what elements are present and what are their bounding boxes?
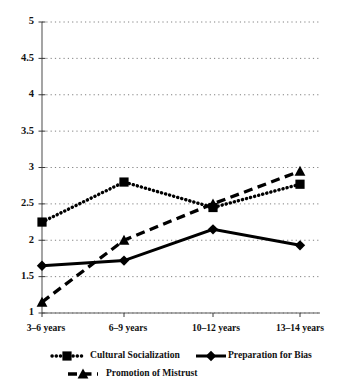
- series-promotion-of-mistrust: [37, 166, 306, 307]
- y-tick-label: 1.5: [21, 270, 34, 281]
- series-layer: [37, 166, 306, 307]
- legend-label: Cultural Socialization: [90, 349, 180, 360]
- data-point-marker: [295, 180, 304, 189]
- legend-item-preparation-for-bias[interactable]: Preparation for Bias: [196, 349, 312, 361]
- data-point-marker: [62, 351, 71, 360]
- y-tick-label: 3.5: [21, 125, 34, 136]
- line-chart: 11.522.533.544.55 3–6 years6–9 years10–1…: [0, 0, 349, 390]
- y-tick-label: 1: [29, 306, 34, 317]
- data-point-marker: [206, 351, 216, 361]
- y-tick-label: 5: [29, 15, 34, 26]
- series-line: [42, 171, 300, 302]
- chart-canvas: 11.522.533.544.55 3–6 years6–9 years10–1…: [0, 0, 349, 390]
- data-point-marker: [295, 240, 305, 250]
- data-point-marker: [37, 261, 47, 271]
- data-point-marker: [37, 217, 46, 226]
- x-tick-label: 13–14 years: [276, 322, 324, 333]
- y-tick-label: 3: [29, 161, 34, 172]
- y-tick-label: 2.5: [21, 197, 34, 208]
- legend-item-promotion-of-mistrust[interactable]: Promotion of Mistrust: [68, 367, 198, 378]
- x-tick-labels: 3–6 years6–9 years10–12 years13–14 years: [27, 322, 325, 333]
- series-line: [42, 182, 300, 222]
- data-point-marker: [208, 224, 218, 234]
- gridlines: [42, 22, 320, 313]
- series-preparation-for-bias: [37, 224, 305, 271]
- y-tick-labels: 11.522.533.544.55: [21, 15, 35, 317]
- data-point-marker: [119, 255, 129, 265]
- x-tick-label: 6–9 years: [109, 322, 148, 333]
- chart-legend: Cultural SocializationPreparation for Bi…: [52, 349, 312, 378]
- x-tick-label: 10–12 years: [192, 322, 240, 333]
- data-point-marker: [119, 177, 128, 186]
- legend-item-cultural-socialization[interactable]: Cultural Socialization: [52, 349, 180, 360]
- series-line: [42, 229, 300, 265]
- y-tick-label: 4.5: [21, 52, 34, 63]
- y-tick-label: 4: [29, 88, 35, 99]
- y-tick-label: 2: [29, 234, 34, 245]
- x-tick-label: 3–6 years: [27, 322, 66, 333]
- x-axis: [42, 313, 320, 317]
- legend-label: Promotion of Mistrust: [106, 367, 198, 378]
- legend-label: Preparation for Bias: [228, 349, 312, 360]
